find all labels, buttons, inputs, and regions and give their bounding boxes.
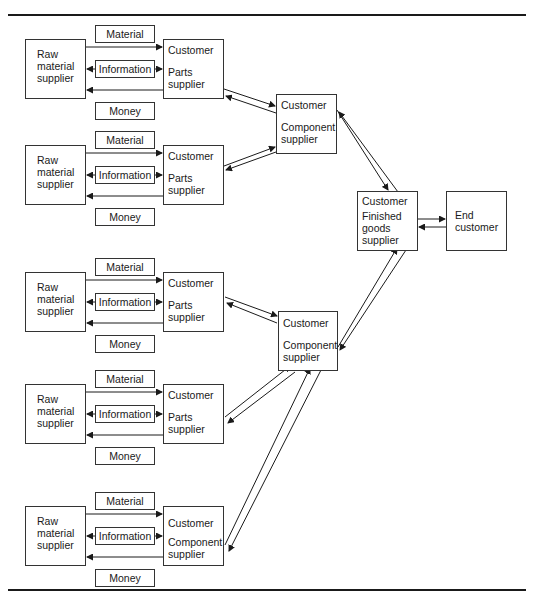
customer-label: Customer bbox=[168, 44, 214, 56]
raw-material-supplier-box: Raw material supplier bbox=[25, 384, 86, 444]
material-label: Material bbox=[95, 25, 155, 43]
role-label: Component supplier bbox=[283, 339, 337, 363]
customer-label: Customer bbox=[168, 150, 214, 162]
raw-supplier-label: Raw material supplier bbox=[37, 154, 74, 190]
information-label: Information bbox=[95, 405, 155, 423]
customer-label: Customer bbox=[168, 517, 214, 529]
customer-label: Customer bbox=[362, 195, 408, 207]
role-label: Component supplier bbox=[281, 121, 335, 145]
role-label: Parts supplier bbox=[168, 172, 205, 196]
role-label: Finished goods supplier bbox=[362, 210, 402, 246]
raw-material-supplier-box: Raw material supplier bbox=[25, 272, 86, 332]
material-label: Material bbox=[95, 492, 155, 510]
role-label: Parts supplier bbox=[168, 66, 205, 90]
component-supplier-box-2: Customer Component supplier bbox=[278, 311, 338, 371]
tier3-supplier-box: Customer Component supplier bbox=[163, 506, 224, 566]
tier3-supplier-box: Customer Parts supplier bbox=[163, 39, 224, 99]
role-label: Component supplier bbox=[168, 536, 222, 560]
end-customer-label: End customer bbox=[455, 209, 498, 233]
finished-goods-supplier-box: Customer Finished goods supplier bbox=[357, 191, 418, 251]
information-label: Information bbox=[95, 293, 155, 311]
customer-label: Customer bbox=[283, 317, 329, 329]
component-supplier-box-1: Customer Component supplier bbox=[276, 94, 337, 154]
tier3-supplier-box: Customer Parts supplier bbox=[163, 145, 224, 205]
end-customer-box: End customer bbox=[446, 191, 507, 251]
role-label: Parts supplier bbox=[168, 299, 205, 323]
material-label: Material bbox=[95, 131, 155, 149]
money-label: Money bbox=[95, 569, 155, 587]
customer-label: Customer bbox=[281, 99, 327, 111]
tier3-supplier-box: Customer Parts supplier bbox=[163, 384, 224, 444]
raw-material-supplier-box: Raw material supplier bbox=[25, 506, 86, 566]
raw-supplier-label: Raw material supplier bbox=[37, 48, 74, 84]
information-label: Information bbox=[95, 166, 155, 184]
customer-label: Customer bbox=[168, 389, 214, 401]
raw-material-supplier-box: Raw material supplier bbox=[25, 39, 86, 99]
raw-supplier-label: Raw material supplier bbox=[37, 393, 74, 429]
money-label: Money bbox=[95, 208, 155, 226]
material-label: Material bbox=[95, 258, 155, 276]
money-label: Money bbox=[95, 102, 155, 120]
material-label: Material bbox=[95, 370, 155, 388]
tier3-supplier-box: Customer Parts supplier bbox=[163, 272, 224, 332]
role-label: Parts supplier bbox=[168, 411, 205, 435]
customer-label: Customer bbox=[168, 277, 214, 289]
information-label: Information bbox=[95, 60, 155, 78]
money-label: Money bbox=[95, 335, 155, 353]
information-label: Information bbox=[95, 527, 155, 545]
money-label: Money bbox=[95, 447, 155, 465]
raw-supplier-label: Raw material supplier bbox=[37, 281, 74, 317]
raw-material-supplier-box: Raw material supplier bbox=[25, 145, 86, 205]
raw-supplier-label: Raw material supplier bbox=[37, 515, 74, 551]
